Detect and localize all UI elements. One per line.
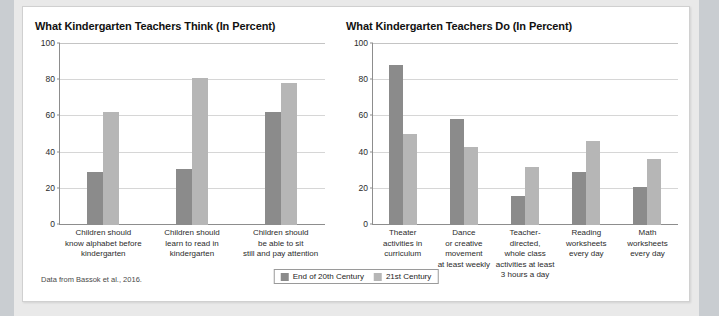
x-axis-label: Children shouldknow alphabet beforekinde… — [59, 228, 148, 260]
page-backdrop: What Kindergarten Teachers Think (In Per… — [0, 0, 719, 316]
y-axis-tick-label: 0 — [363, 219, 368, 229]
bar — [572, 172, 586, 225]
bar — [464, 147, 478, 225]
legend-label: End of 20th Century — [293, 272, 364, 281]
source-note: Data from Bassok et al., 2016. — [41, 275, 142, 284]
x-axis-label: Mathworksheetsevery day — [617, 228, 678, 281]
plot-left: 020406080100 — [59, 43, 325, 225]
y-axis-tick-label: 80 — [46, 74, 55, 84]
bar — [403, 134, 417, 225]
bar-groups-left — [59, 43, 325, 225]
legend-swatch — [374, 273, 382, 281]
y-axis-tick-label: 80 — [359, 74, 368, 84]
x-axis-label: Children shouldbe able to sitstill and p… — [236, 228, 325, 260]
bar-group — [236, 43, 325, 225]
bar — [633, 187, 647, 225]
bar — [281, 83, 297, 225]
y-axis-tick-label: 20 — [46, 183, 55, 193]
bar — [389, 65, 403, 225]
x-axis-labels-left: Children shouldknow alphabet beforekinde… — [59, 228, 325, 260]
x-axis-label: Teacher-directed,whole classactivities a… — [494, 228, 555, 281]
x-axis-label: Danceor creativemovementat least weekly — [433, 228, 494, 281]
bar — [103, 112, 119, 225]
y-axis-tick-label: 40 — [359, 147, 368, 157]
bar — [525, 167, 539, 225]
legend-label: 21st Century — [386, 272, 431, 281]
bar-group — [617, 43, 678, 225]
bar — [511, 196, 525, 225]
legend-swatch — [281, 273, 289, 281]
y-axis-tick-label: 100 — [354, 38, 368, 48]
chart-panel-teachers-think: What Kindergarten Teachers Think (In Per… — [23, 7, 334, 269]
y-axis-tick-label: 0 — [50, 219, 55, 229]
bar-group — [148, 43, 237, 225]
bar-group — [494, 43, 555, 225]
chart-legend: End of 20th Century21st Century — [274, 269, 439, 284]
bar — [450, 119, 464, 225]
bar-group — [59, 43, 148, 225]
bar-group — [556, 43, 617, 225]
x-axis-label: Children shouldlearn to read inkindergar… — [148, 228, 237, 260]
y-axis-tick-label: 20 — [359, 183, 368, 193]
plot-right: 020406080100 — [372, 43, 678, 225]
bar — [87, 172, 103, 225]
chart-panel-teachers-do: What Kindergarten Teachers Do (In Percen… — [334, 7, 689, 269]
x-axis-label: Readingworksheetsevery day — [556, 228, 617, 281]
bar — [586, 141, 600, 225]
bar — [265, 112, 281, 225]
y-axis-tick-label: 60 — [359, 110, 368, 120]
legend-item: 21st Century — [374, 272, 431, 281]
y-axis-tick-label: 40 — [46, 147, 55, 157]
bar-group — [372, 43, 433, 225]
legend-item: End of 20th Century — [281, 272, 364, 281]
chart-title-right: What Kindergarten Teachers Do (In Percen… — [346, 20, 572, 32]
bar-group — [433, 43, 494, 225]
bar — [192, 78, 208, 225]
y-axis-tick-label: 100 — [41, 38, 55, 48]
bar — [176, 169, 192, 225]
bar-groups-right — [372, 43, 678, 225]
chart-title-left: What Kindergarten Teachers Think (In Per… — [35, 20, 275, 32]
figure-card: What Kindergarten Teachers Think (In Per… — [22, 6, 690, 302]
bar — [647, 159, 661, 225]
y-axis-tick-label: 60 — [46, 110, 55, 120]
charts-container: What Kindergarten Teachers Think (In Per… — [23, 7, 689, 269]
